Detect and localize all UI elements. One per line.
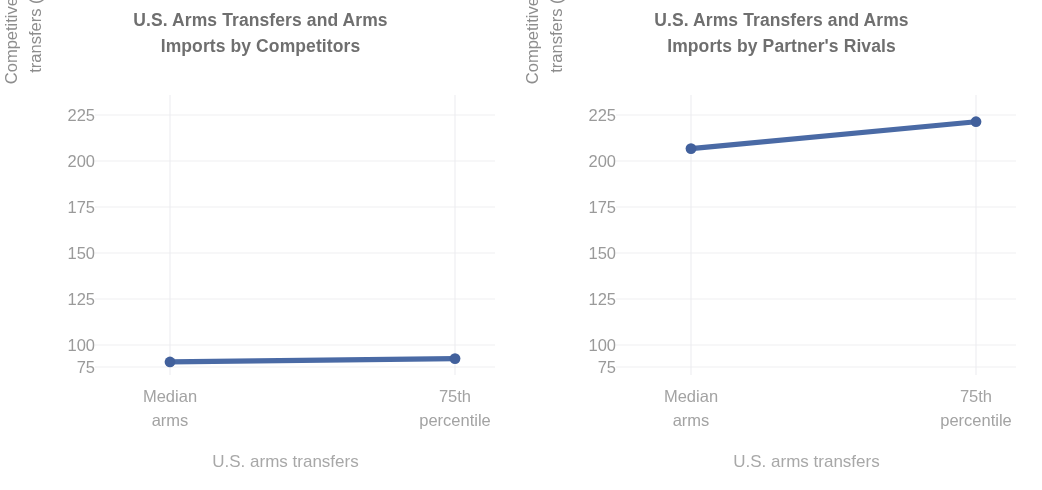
x-tick-p75-line1-right: 75th [906, 385, 1042, 409]
x-tick-median-line2-left: arms [100, 409, 240, 433]
chart-panel-competitors: U.S. Arms Transfers and Arms Imports by … [0, 0, 521, 490]
data-line-right [691, 122, 976, 149]
y-axis-title-right-line1: Competitive arms [521, 0, 545, 160]
x-tick-label-p75-left: 75th percentile [385, 385, 525, 433]
chart-title-right-line1: U.S. Arms Transfers and Arms [521, 8, 1042, 34]
y-tick-label-225-left: 225 [45, 106, 95, 125]
x-tick-p75-line2-right: percentile [906, 409, 1042, 433]
x-axis-title-left: U.S. arms transfers [60, 452, 511, 472]
x-tick-median-line2-right: arms [621, 409, 761, 433]
y-tick-label-150-right: 150 [566, 244, 616, 263]
y-tick-label-175-right: 175 [566, 198, 616, 217]
line-chart-svg-right [616, 95, 1016, 375]
chart-title-left: U.S. Arms Transfers and Arms Imports by … [0, 8, 521, 60]
x-tick-p75-line1-left: 75th [385, 385, 525, 409]
chart-title-left-line1: U.S. Arms Transfers and Arms [0, 8, 521, 34]
data-point-p75-left [450, 353, 461, 364]
y-tick-label-200-left: 200 [45, 152, 95, 171]
x-tick-label-median-right: Median arms [621, 385, 761, 433]
plot-area-right: 225 200 175 150 125 100 75 [616, 95, 1016, 375]
y-tick-label-150-left: 150 [45, 244, 95, 263]
chart-panel-partners-rivals: U.S. Arms Transfers and Arms Imports by … [521, 0, 1042, 490]
y-axis-title-left: Competitive arms transfers (TIV) [0, 0, 60, 160]
y-tick-label-125-left: 125 [45, 290, 95, 309]
y-tick-label-75-left: 75 [45, 358, 95, 377]
x-tick-p75-line2-left: percentile [385, 409, 525, 433]
plot-area-left: 225 200 175 150 125 100 75 [95, 95, 495, 375]
x-tick-median-line1-left: Median [100, 385, 240, 409]
data-point-p75-right [971, 116, 982, 127]
data-series-right [686, 116, 982, 154]
data-point-median-left [165, 357, 176, 368]
data-series-left [165, 353, 461, 367]
y-tick-label-175-left: 175 [45, 198, 95, 217]
y-tick-label-225-right: 225 [566, 106, 616, 125]
x-axis-title-right: U.S. arms transfers [581, 452, 1032, 472]
y-tick-label-100-left: 100 [45, 336, 95, 355]
gridlines-right [616, 115, 1016, 367]
x-tick-median-line1-right: Median [621, 385, 761, 409]
y-tick-label-75-right: 75 [566, 358, 616, 377]
y-tick-label-125-right: 125 [566, 290, 616, 309]
chart-title-right-line2: Imports by Partner's Rivals [521, 34, 1042, 60]
y-axis-title-right-line2: transfers (TIV) [545, 0, 569, 160]
y-axis-title-left-line1: Competitive arms [0, 0, 24, 160]
x-tick-label-median-left: Median arms [100, 385, 240, 433]
data-point-median-right [686, 143, 697, 154]
chart-title-left-line2: Imports by Competitors [0, 34, 521, 60]
figure-container: U.S. Arms Transfers and Arms Imports by … [0, 0, 1042, 490]
axis-spine-left [170, 95, 455, 375]
chart-title-right: U.S. Arms Transfers and Arms Imports by … [521, 8, 1042, 60]
y-tick-label-200-right: 200 [566, 152, 616, 171]
y-axis-title-right: Competitive arms transfers (TIV) [521, 0, 581, 160]
y-tick-label-100-right: 100 [566, 336, 616, 355]
line-chart-svg-left [95, 95, 495, 375]
gridlines-left [95, 115, 495, 367]
data-line-left [170, 359, 455, 362]
y-axis-title-left-line2: transfers (TIV) [24, 0, 48, 160]
x-tick-label-p75-right: 75th percentile [906, 385, 1042, 433]
